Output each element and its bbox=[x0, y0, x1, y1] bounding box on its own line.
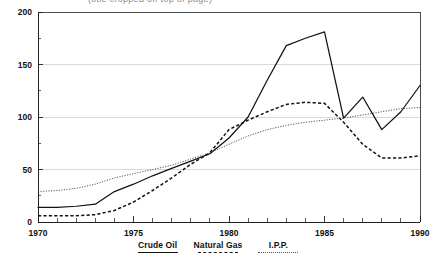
legend-label-natural-gas: Natural Gas bbox=[194, 240, 243, 250]
x-axis-labels: 19701975198019851990 bbox=[29, 228, 430, 238]
legend-swatch-solid-line-icon bbox=[138, 251, 178, 255]
legend-item-natural-gas[interactable]: Natural Gas bbox=[194, 240, 243, 255]
y-tick-label-200: 200 bbox=[18, 7, 32, 17]
gridlines-group bbox=[38, 65, 420, 170]
line-chart-plot: 050100150200 19701975198019851990 bbox=[0, 0, 436, 271]
x-tick-label-1975: 1975 bbox=[124, 228, 143, 238]
y-axis-labels: 050100150200 bbox=[18, 7, 32, 227]
y-tick-label-150: 150 bbox=[18, 60, 32, 70]
x-tick-label-1970: 1970 bbox=[29, 228, 48, 238]
chart-figure: (title cropped off top of page) 05010015… bbox=[0, 0, 436, 271]
legend-item-crude-oil[interactable]: Crude Oil bbox=[138, 240, 178, 255]
series-line-natural-gas bbox=[38, 102, 420, 215]
chart-legend: Crude Oil Natural Gas I.P.P. bbox=[0, 240, 436, 264]
legend-item-ipp[interactable]: I.P.P. bbox=[258, 240, 298, 255]
series-line-i-p-p bbox=[38, 108, 420, 192]
series-line-crude-oil bbox=[38, 32, 420, 207]
legend-label-ipp: I.P.P. bbox=[269, 240, 288, 250]
legend-swatch-dashed-line-icon bbox=[198, 251, 238, 255]
x-tick-label-1980: 1980 bbox=[220, 228, 239, 238]
y-tick-label-0: 0 bbox=[27, 217, 32, 227]
legend-swatch-dotted-line-icon bbox=[258, 251, 298, 255]
x-tick-label-1990: 1990 bbox=[411, 228, 430, 238]
data-series-group bbox=[38, 32, 420, 216]
y-tick-label-100: 100 bbox=[18, 112, 32, 122]
legend-label-crude-oil: Crude Oil bbox=[138, 240, 177, 250]
x-tick-label-1985: 1985 bbox=[315, 228, 334, 238]
y-tick-label-50: 50 bbox=[23, 165, 33, 175]
